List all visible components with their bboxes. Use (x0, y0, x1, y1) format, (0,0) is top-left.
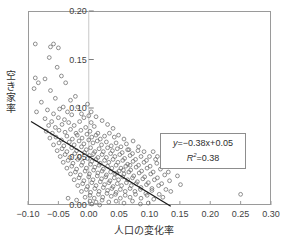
x-axis-tick-label: −0.10 (11, 209, 45, 219)
regression-equation: y=−0.38x+0.05 (163, 137, 243, 149)
x-axis-title: 人口の変化率 (0, 222, 287, 237)
scatter-chart: 0.000.050.100.150.20 −0.10−0.050.000.050… (0, 0, 287, 240)
regression-annotation-box: y=−0.38x+0.05 R2=0.38 (160, 133, 246, 169)
x-axis-tick-label: 0.20 (193, 209, 227, 219)
y-axis-tick-label: 0.10 (61, 103, 87, 113)
x-axis-tick-label: −0.05 (41, 209, 75, 219)
y-axis-tick-label: 0.05 (61, 152, 87, 162)
x-axis-tick-label: 0.15 (163, 209, 197, 219)
r-squared-line: R2=0.38 (163, 149, 243, 164)
y-axis-tick-label: 0.15 (61, 55, 87, 65)
x-axis-tick-label: 0.05 (102, 209, 136, 219)
x-axis-tick-label: 0.30 (254, 209, 287, 219)
y-axis-tick-label: 0.20 (61, 6, 87, 16)
x-axis-tick-label: 0.25 (224, 209, 258, 219)
r-squared-value: =0.38 (197, 153, 220, 163)
x-axis-tick-label: 0.10 (133, 209, 167, 219)
x-axis-tick-label: 0.00 (72, 209, 106, 219)
equation-body: =−0.38x+0.05 (178, 138, 233, 148)
y-axis-title: 空き家率 (4, 70, 18, 114)
